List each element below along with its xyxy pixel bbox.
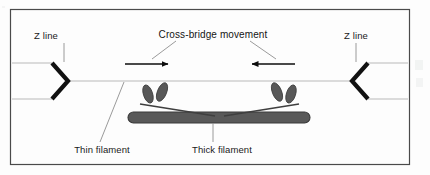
thin-filament-label: Thin filament: [74, 144, 130, 155]
z-line-right-label: Z line: [344, 30, 368, 41]
thick-filament-label: Thick filament: [192, 144, 252, 155]
thick-filament: [128, 112, 310, 123]
z-line-left-label: Z line: [34, 30, 58, 41]
crossbridge-movement-label: Cross-bridge movement: [159, 29, 268, 40]
sarcomere-diagram: Z line Z line Cross-bridge movement Thin…: [0, 0, 430, 175]
figure-root: Z line Z line Cross-bridge movement Thin…: [0, 0, 430, 175]
